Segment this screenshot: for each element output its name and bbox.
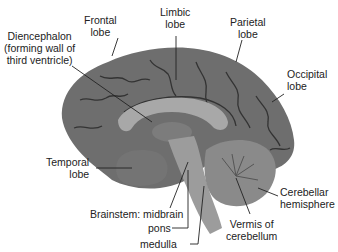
temporal-lobe-line1: Temporal [46,156,89,168]
vermis-line1: Vermis of [226,218,277,230]
limbic-lobe-line2: lobe [160,18,190,30]
diencephalon-line3: third ventricle) [4,54,75,66]
frontal-lobe-line2: lobe [84,26,117,38]
parietal-lobe-line1: Parietal [230,16,266,28]
label-cerebellar-hemisphere: Cerebellar hemisphere [280,186,335,210]
cerebellar-hemisphere-line1: Cerebellar [280,186,335,198]
frontal-lobe-line1: Frontal [84,14,117,26]
vermis-line2: cerebellum [226,230,277,242]
cerebellar-hemisphere-line2: hemisphere [280,198,335,210]
parietal-lobe-line2: lobe [230,28,266,40]
label-temporal-lobe: Temporal lobe [46,156,89,180]
label-limbic-lobe: Limbic lobe [160,6,190,30]
label-parietal-lobe: Parietal lobe [230,16,266,40]
label-medulla: medulla [140,238,177,250]
label-brainstem-midbrain: Brainstem: midbrain [90,208,183,220]
brain-diagram: Frontal lobe Limbic lobe Parietal lobe O… [0,0,338,252]
limbic-lobe-line1: Limbic [160,6,190,18]
temporal-lobe-line2: lobe [46,168,89,180]
label-vermis: Vermis of cerebellum [226,218,277,242]
label-frontal-lobe: Frontal lobe [84,14,117,38]
label-diencephalon: Diencephalon (forming wall of third vent… [4,30,75,66]
diencephalon-line2: (forming wall of [4,42,75,54]
label-occipital-lobe: Occipital lobe [287,68,327,92]
label-pons: pons [148,222,171,234]
occipital-lobe-line1: Occipital [287,68,327,80]
occipital-lobe-line2: lobe [287,80,327,92]
diencephalon-line1: Diencephalon [4,30,75,42]
